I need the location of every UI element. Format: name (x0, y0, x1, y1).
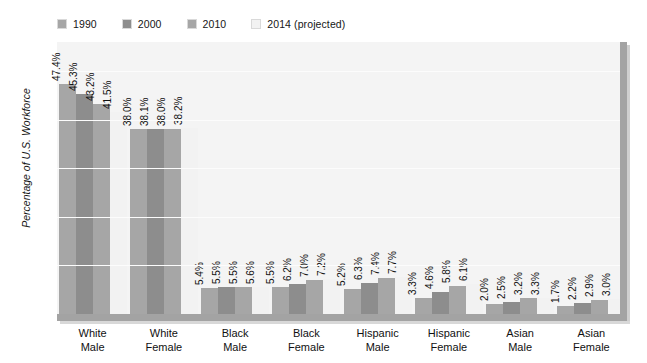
bar-1990[interactable] (201, 288, 218, 314)
x-category-label: AsianFemale (546, 326, 636, 354)
bar-value-label: 38.0% (156, 98, 167, 126)
bar-slot: 38.0% (164, 42, 181, 314)
bar-2000[interactable] (147, 129, 164, 314)
bar-value-label: 6.2% (282, 258, 293, 281)
bar-2010[interactable] (449, 286, 466, 314)
legend-item-2010: 2010 (187, 18, 227, 30)
bar-slot: 38.0% (130, 42, 147, 314)
bar-2000[interactable] (503, 302, 520, 314)
y-axis-title: Percentage of U.S. Workforce (20, 63, 32, 253)
bar-2000[interactable] (289, 284, 306, 314)
legend-swatch-icon (251, 19, 261, 29)
bar-value-label: 4.6% (424, 266, 435, 289)
bar-1990[interactable] (130, 129, 147, 314)
legend-label: 1990 (73, 18, 97, 30)
bar-value-label: 5.8% (441, 260, 452, 283)
bar-2010[interactable] (306, 280, 323, 314)
bar-slot: 6.1% (466, 42, 483, 314)
bar-value-label: 1.7% (550, 280, 561, 303)
bar-2014-projected-[interactable] (181, 128, 198, 314)
bar-group-black-male: 5.4%5.5%5.5%5.6% (201, 42, 269, 314)
bar-value-label: 47.4% (51, 52, 62, 80)
bar-group-white-male: 47.4%45.3%43.2%41.5% (59, 42, 127, 314)
x-category-label-line: Female (546, 340, 636, 354)
bar-value-label: 2.0% (479, 279, 490, 302)
bar-slot: 2.0% (486, 42, 503, 314)
bar-2010[interactable] (520, 298, 537, 314)
bar-group-asian-female: 1.7%2.2%2.9%3.0% (557, 42, 625, 314)
bar-value-label: 38.1% (139, 98, 150, 126)
bar-2000[interactable] (574, 303, 591, 314)
bar-2010[interactable] (591, 300, 608, 314)
bar-value-label: 2.9% (584, 274, 595, 297)
bar-group-black-female: 5.5%6.2%7.0%7.2% (272, 42, 340, 314)
gridline (57, 168, 627, 169)
bar-value-label: 2.5% (496, 276, 507, 299)
bar-2010[interactable] (235, 287, 252, 314)
gridline (57, 120, 627, 121)
legend-swatch-icon (57, 19, 67, 29)
bar-value-label: 7.7% (387, 251, 398, 274)
bar-chart: 1990200020102014 (projected) Percentage … (0, 0, 647, 363)
gridline (57, 265, 627, 266)
x-axis-shadow (60, 321, 630, 324)
bar-value-label: 5.6% (245, 261, 256, 284)
bar-value-label: 45.3% (68, 63, 79, 91)
legend-item-2014-projected-: 2014 (projected) (251, 18, 345, 30)
bar-value-label: 38.2% (173, 97, 184, 125)
bar-value-label: 6.1% (458, 259, 469, 282)
plot-right-wall (620, 42, 627, 321)
bar-2010[interactable] (93, 104, 110, 314)
bar-value-label: 3.3% (407, 272, 418, 295)
bar-2010[interactable] (378, 278, 395, 314)
bar-1990[interactable] (344, 289, 361, 314)
x-axis-line (57, 314, 627, 321)
bar-2014-projected-[interactable] (110, 112, 127, 314)
bar-value-label: 43.2% (85, 73, 96, 101)
bar-2014-projected-[interactable] (252, 287, 269, 314)
bar-group-white-female: 38.0%38.1%38.0%38.2% (130, 42, 198, 314)
gridline (57, 217, 627, 218)
plot-right-wall-shadow (627, 45, 630, 324)
bar-value-label: 3.3% (530, 272, 541, 295)
bar-2000[interactable] (218, 287, 235, 314)
bar-groups: 47.4%45.3%43.2%41.5%38.0%38.1%38.0%38.2%… (57, 42, 627, 314)
bar-1990[interactable] (272, 287, 289, 314)
legend-item-1990: 1990 (57, 18, 97, 30)
bar-1990[interactable] (415, 298, 432, 314)
bar-2010[interactable] (164, 129, 181, 314)
bar-value-label: 3.0% (601, 274, 612, 297)
bar-slot: 38.1% (147, 42, 164, 314)
bar-1990[interactable] (59, 84, 76, 314)
bar-value-label: 38.0% (122, 98, 133, 126)
bar-group-asian-male: 2.0%2.5%3.2%3.3% (486, 42, 554, 314)
bar-2000[interactable] (76, 94, 93, 314)
bar-2000[interactable] (432, 292, 449, 314)
legend-label: 2000 (138, 18, 162, 30)
bar-group-hispanic-male: 5.2%6.3%7.4%7.7% (344, 42, 412, 314)
legend-label: 2010 (203, 18, 227, 30)
bar-group-hispanic-female: 3.3%4.6%5.8%6.1% (415, 42, 483, 314)
bar-1990[interactable] (486, 304, 503, 314)
legend-swatch-icon (187, 19, 197, 29)
bar-value-label: 3.2% (513, 273, 524, 296)
plot-area: 47.4%45.3%43.2%41.5%38.0%38.1%38.0%38.2%… (57, 42, 627, 314)
bar-slot: 1.7% (557, 42, 574, 314)
bar-slot: 41.5% (110, 42, 127, 314)
bar-value-label: 2.2% (567, 278, 578, 301)
legend-item-2000: 2000 (122, 18, 162, 30)
bar-value-label: 7.4% (370, 252, 381, 275)
x-category-label-line: Asian (546, 326, 636, 340)
chart-legend: 1990200020102014 (projected) (57, 17, 345, 31)
bar-1990[interactable] (557, 306, 574, 314)
bar-slot: 3.3% (537, 42, 554, 314)
bar-value-label: 6.3% (353, 258, 364, 281)
legend-label: 2014 (projected) (267, 18, 345, 30)
gridline (57, 71, 627, 72)
bar-2000[interactable] (361, 283, 378, 314)
legend-swatch-icon (122, 19, 132, 29)
bar-value-label: 41.5% (102, 81, 113, 109)
